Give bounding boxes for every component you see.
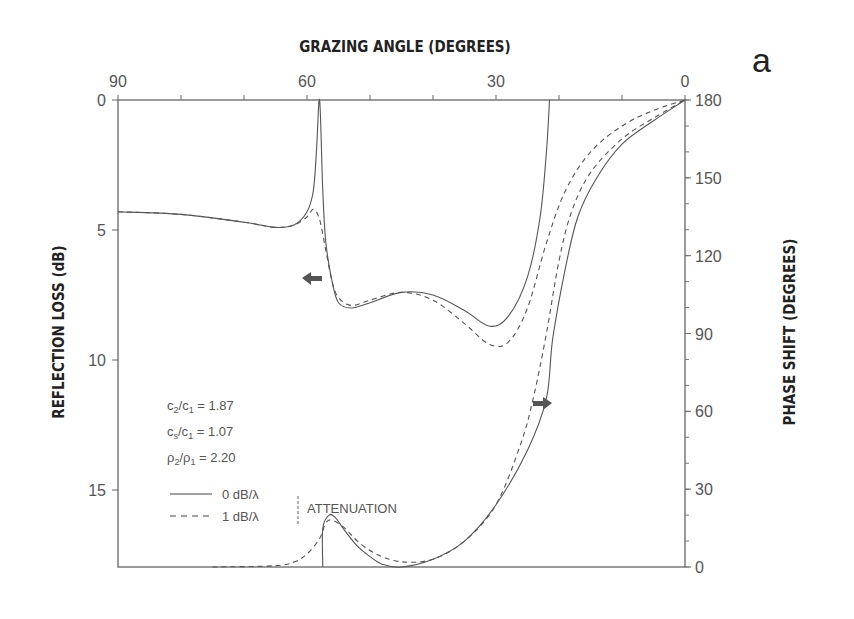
right-tick-label: 0 (695, 559, 704, 576)
x-axis-ticks: 9060300 (109, 73, 689, 100)
parameters-block: c2/c1 = 1.87 cs/c1 = 1.07 ρ2/ρ1 = 2.20 (167, 398, 236, 467)
curve-3 (213, 100, 686, 567)
right-tick-label: 120 (695, 248, 722, 265)
plot-frame (118, 100, 685, 567)
right-tick-label: 150 (695, 170, 722, 187)
left-axis-ticks: 051015 (88, 92, 118, 499)
right-tick-label: 30 (695, 481, 713, 498)
panel-label: a (752, 41, 771, 79)
x-tick-label: 0 (681, 73, 690, 90)
right-axis-ticks: 1801501209060300 (685, 92, 722, 576)
x-tick-label: 30 (487, 73, 505, 90)
curve-1 (118, 100, 685, 347)
param-cs-c1: cs/c1 = 1.07 (167, 424, 233, 441)
legend-label-1db: 1 dB/λ (222, 509, 259, 524)
x-tick-label: 60 (298, 73, 316, 90)
right-tick-label: 90 (695, 326, 713, 343)
left-axis-title: REFLECTION LOSS (dB) (50, 245, 68, 419)
legend-label-0db: 0 dB/λ (222, 487, 259, 502)
param-rho2-rho1: ρ2/ρ1 = 2.20 (167, 450, 236, 467)
curve-2 (322, 100, 685, 567)
left-tick-label: 10 (88, 352, 106, 369)
x-tick-label: 90 (109, 73, 127, 90)
right-axis-arrow-icon (533, 397, 552, 410)
right-tick-label: 180 (695, 92, 722, 109)
data-curves (118, 99, 685, 567)
x-axis-title: GRAZING ANGLE (DEGREES) (299, 38, 511, 56)
curve-0 (118, 99, 550, 326)
param-c2-c1: c2/c1 = 1.87 (167, 398, 234, 415)
right-axis-title: PHASE SHIFT (DEGREES) (781, 239, 799, 426)
right-tick-label: 60 (695, 403, 713, 420)
left-tick-label: 0 (97, 92, 106, 109)
left-axis-arrow-icon (302, 272, 322, 285)
left-tick-label: 15 (88, 482, 106, 499)
legend: 0 dB/λ 1 dB/λ ATTENUATION (170, 487, 397, 524)
legend-group-label: ATTENUATION (307, 501, 397, 516)
left-tick-label: 5 (97, 222, 106, 239)
reflection-loss-phase-chart: GRAZING ANGLE (DEGREES) a 9060300 051015… (0, 0, 854, 619)
